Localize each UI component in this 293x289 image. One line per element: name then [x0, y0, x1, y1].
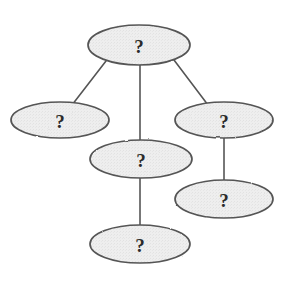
node-top-label: ?	[134, 36, 144, 57]
node-lower-right[interactable]: ?	[175, 180, 273, 218]
node-left-label: ?	[55, 111, 65, 132]
edge-top-to-right	[174, 60, 208, 105]
diagram-canvas: ??????	[0, 0, 293, 289]
node-link-graph: ??????	[0, 0, 293, 289]
edge-top-to-left	[72, 61, 106, 105]
node-left[interactable]: ?	[11, 102, 109, 138]
node-right[interactable]: ?	[175, 102, 273, 138]
node-bottom-label: ?	[135, 235, 145, 256]
node-middle[interactable]: ?	[90, 140, 192, 178]
node-bottom[interactable]: ?	[90, 225, 190, 263]
node-lower-right-label: ?	[219, 190, 229, 211]
node-right-label: ?	[219, 111, 229, 132]
node-top[interactable]: ?	[88, 25, 190, 65]
node-layer: ??????	[11, 25, 273, 263]
node-middle-label: ?	[136, 150, 146, 171]
